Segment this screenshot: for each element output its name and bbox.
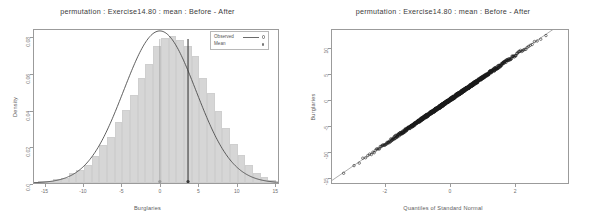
qq-points-layer <box>332 30 568 183</box>
axis-tick <box>83 184 84 187</box>
legend-key-observed <box>243 35 265 40</box>
qqplot-plot-area <box>331 29 569 184</box>
axis-tick-label: 5 <box>197 189 200 194</box>
axis-tick <box>275 184 276 187</box>
figure-canvas: permutation : Exercise14.80 : mean : Bef… <box>0 0 591 224</box>
axis-tick-label: -2 <box>383 189 387 194</box>
reference-vertical-lines <box>34 30 278 183</box>
axis-tick <box>237 184 238 187</box>
axis-tick-label: 0 <box>158 189 161 194</box>
axis-tick-label: 0.0 <box>26 184 31 212</box>
panel-qqplot: permutation : Exercise14.80 : mean : Bef… <box>295 0 591 224</box>
qqplot-title: permutation : Exercise14.80 : mean : Bef… <box>295 7 591 16</box>
qqplot-x-axis-title: Quantiles of Standard Normal <box>403 205 482 211</box>
axis-tick-label: 0.04 <box>26 111 31 139</box>
histogram-plot-area <box>33 29 279 184</box>
axis-tick-label: 2 <box>514 189 517 194</box>
panel-histogram: permutation : Exercise14.80 : mean : Bef… <box>0 0 295 224</box>
axis-tick <box>121 184 122 187</box>
axis-tick-label: 0.06 <box>26 74 31 102</box>
legend-entry-observed: Observed <box>214 34 265 41</box>
axis-tick-label: -10 <box>79 189 86 194</box>
axis-tick-label: 0.02 <box>26 147 31 175</box>
qqplot-y-axis-title: Burglaries <box>310 93 316 120</box>
axis-tick-label: -5 <box>119 189 123 194</box>
legend-entry-mean: Mean <box>214 41 265 48</box>
legend-label-mean: Mean <box>214 41 240 48</box>
histogram-title: permutation : Exercise14.80 : mean : Bef… <box>0 7 295 16</box>
axis-tick-label: 0 <box>449 189 452 194</box>
legend-key-mean <box>243 41 265 46</box>
histogram-x-axis-title: Burglaries <box>134 205 161 211</box>
axis-tick-label: -15 <box>41 189 48 194</box>
axis-tick <box>198 184 199 187</box>
axis-tick <box>385 184 386 187</box>
axis-tick-label: 0.08 <box>26 37 31 65</box>
axis-tick <box>45 184 46 187</box>
axis-tick <box>450 184 451 187</box>
histogram-legend: Observed Mean <box>210 31 269 50</box>
axis-tick <box>160 184 161 187</box>
axis-tick <box>515 184 516 187</box>
axis-tick-label: 15 <box>272 189 278 194</box>
axis-tick-label: 10 <box>234 189 240 194</box>
axis-tick-label: 10 <box>324 48 329 224</box>
legend-label-observed: Observed <box>214 34 240 41</box>
histogram-y-axis-title: Density <box>12 97 18 117</box>
